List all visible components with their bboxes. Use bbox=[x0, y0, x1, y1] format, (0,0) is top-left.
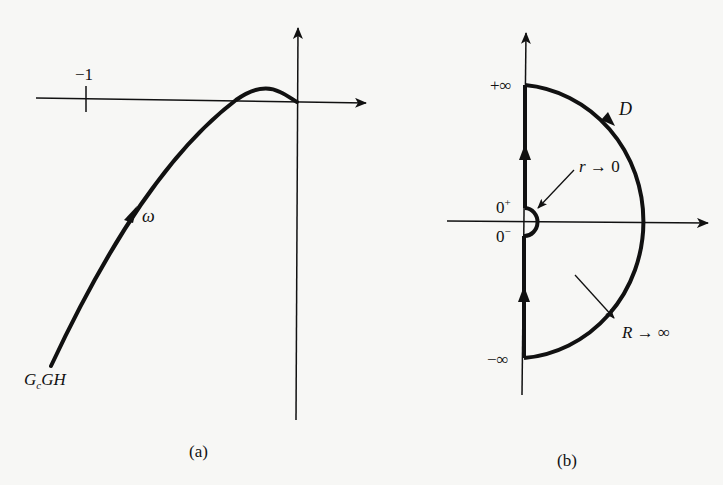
r-to-zero-label: r → 0 bbox=[579, 158, 620, 175]
plus-infinity-label: +∞ bbox=[490, 77, 512, 94]
zero-minus-label: 0− bbox=[496, 226, 511, 245]
zero-minus-base: 0 bbox=[496, 227, 505, 246]
zero-plus-sup: + bbox=[505, 196, 511, 208]
minus-one-label: −1 bbox=[75, 66, 93, 83]
R-pointer bbox=[575, 275, 614, 318]
tf-GH: GH bbox=[41, 370, 66, 389]
zero-minus-sup: − bbox=[505, 225, 511, 237]
omega-label: ω bbox=[142, 207, 155, 225]
tf-G: G bbox=[24, 370, 36, 389]
nyquist-curve bbox=[51, 88, 297, 366]
minus-infinity-label: −∞ bbox=[487, 351, 509, 368]
up-arrow-upper bbox=[519, 144, 531, 160]
caption-a: (a) bbox=[189, 443, 208, 460]
diagram-canvas: −1 ω GcGH (a) +∞ D r → 0 0+ 0− R → ∞ −∞ … bbox=[0, 0, 723, 485]
r-symbol: r bbox=[579, 157, 586, 176]
R-to-infinity-label: R → ∞ bbox=[622, 324, 670, 341]
zero-plus-base: 0 bbox=[496, 198, 505, 217]
r-limit-text: → 0 bbox=[586, 157, 620, 176]
up-arrow-lower bbox=[518, 286, 530, 302]
zero-plus-label: 0+ bbox=[496, 197, 511, 216]
contour-D-label: D bbox=[619, 100, 632, 118]
real-axis-b bbox=[447, 221, 708, 223]
caption-b: (b) bbox=[557, 452, 577, 469]
R-limit-text: → ∞ bbox=[632, 323, 670, 342]
R-symbol: R bbox=[622, 323, 632, 342]
panel-a-nyquist-plot bbox=[36, 28, 366, 420]
imag-axis-a bbox=[296, 28, 298, 420]
r-pointer bbox=[538, 170, 574, 208]
diagram-graphics bbox=[0, 0, 723, 485]
transfer-function-label: GcGH bbox=[24, 371, 66, 391]
